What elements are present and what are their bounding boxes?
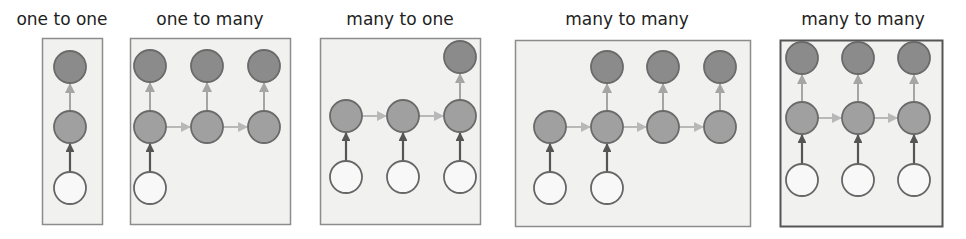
panel-5 xyxy=(781,41,943,227)
hidden-node xyxy=(704,111,736,143)
hidden-node xyxy=(591,111,623,143)
panel-2 xyxy=(131,39,291,225)
output-node xyxy=(842,42,874,74)
output-node xyxy=(898,42,930,74)
hidden-node xyxy=(134,111,166,143)
input-node xyxy=(842,164,874,196)
output-node xyxy=(248,50,280,82)
hidden-node xyxy=(647,111,679,143)
input-node xyxy=(134,172,166,204)
input-node xyxy=(54,172,86,204)
hidden-node xyxy=(248,111,280,143)
hidden-node xyxy=(191,111,223,143)
hidden-node xyxy=(54,111,86,143)
hidden-node xyxy=(387,100,419,132)
hidden-node xyxy=(534,111,566,143)
hidden-node xyxy=(842,102,874,134)
input-node xyxy=(591,172,623,204)
panel-3 xyxy=(321,39,481,225)
output-node xyxy=(704,51,736,83)
input-node xyxy=(387,161,419,193)
panel-4 xyxy=(516,41,751,227)
output-node xyxy=(191,50,223,82)
output-node xyxy=(591,51,623,83)
panel-1 xyxy=(43,39,103,225)
rnn-architectures-diagram xyxy=(0,0,966,239)
output-node xyxy=(134,50,166,82)
output-node xyxy=(54,51,86,83)
input-node xyxy=(330,161,362,193)
output-node xyxy=(786,42,818,74)
hidden-node xyxy=(786,102,818,134)
output-node xyxy=(444,41,476,73)
input-node xyxy=(534,172,566,204)
input-node xyxy=(898,164,930,196)
output-node xyxy=(647,51,679,83)
hidden-node xyxy=(898,102,930,134)
hidden-node xyxy=(444,100,476,132)
input-node xyxy=(444,161,476,193)
input-node xyxy=(786,164,818,196)
hidden-node xyxy=(330,100,362,132)
